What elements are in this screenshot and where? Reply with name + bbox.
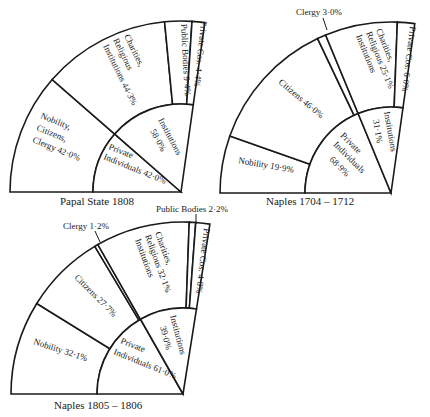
label-clergy: Clergy 1·2%	[63, 221, 110, 231]
chart-title: Naples 1704 – 1712	[266, 195, 354, 207]
label-clergy: Clergy 3·0%	[296, 7, 343, 17]
chart-title: Papal State 1808	[60, 195, 134, 207]
clergy-leader-line	[95, 231, 100, 242]
label-public-bodies: Public Bodies 2·2%	[156, 204, 228, 214]
clergy-leader-line	[323, 18, 327, 30]
ownership-quadrant-diagrams: Nobility, Citizens, Clergy 42·0% Chariti…	[0, 0, 430, 417]
chart-title: Naples 1805 – 1806	[54, 399, 143, 411]
